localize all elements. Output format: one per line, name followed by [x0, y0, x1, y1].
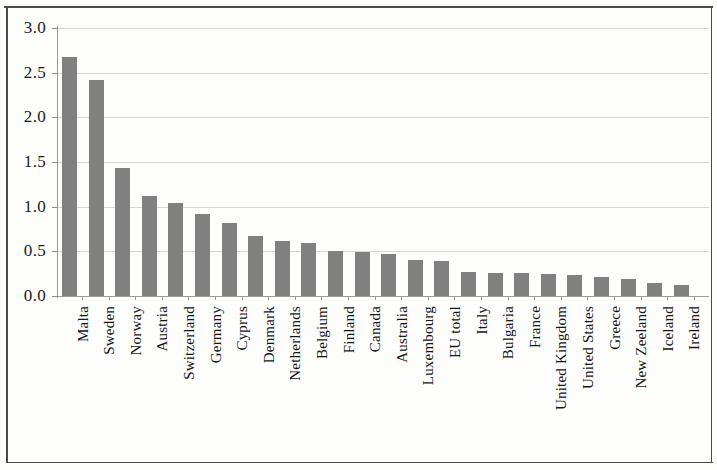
x-axis-label: United Kingdom: [554, 306, 569, 456]
x-tick-mark: [162, 296, 163, 300]
bar: [222, 223, 237, 296]
x-tick-mark: [242, 296, 243, 300]
x-tick-mark: [561, 296, 562, 300]
bar: [674, 285, 689, 296]
x-tick-mark: [135, 296, 136, 300]
y-tick-label-0.0: 0.0: [0, 287, 46, 304]
bar: [62, 57, 77, 296]
x-axis-label: Denmark: [262, 306, 277, 456]
bar: [434, 261, 449, 296]
bar: [301, 243, 316, 296]
x-axis-label: Greece: [608, 306, 623, 456]
bar: [275, 241, 290, 296]
y-tick-label-2.0: 2.0: [0, 108, 46, 125]
x-tick-mark: [268, 296, 269, 300]
x-tick-mark: [641, 296, 642, 300]
bar: [381, 254, 396, 296]
x-tick-mark: [614, 296, 615, 300]
x-tick-mark: [82, 296, 83, 300]
bar: [567, 275, 582, 296]
x-tick-mark: [401, 296, 402, 300]
bar: [594, 277, 609, 296]
x-axis-label: Ireland: [687, 306, 702, 456]
x-tick-mark: [508, 296, 509, 300]
x-tick-mark: [321, 296, 322, 300]
x-tick-mark: [587, 296, 588, 300]
bar: [355, 252, 370, 296]
x-axis-label: Italy: [475, 306, 490, 456]
bar: [195, 214, 210, 296]
x-axis-label: Netherlands: [288, 306, 303, 456]
bar: [488, 273, 503, 296]
y-tick-mark-2.0: [52, 117, 58, 118]
x-axis-label: Norway: [129, 306, 144, 456]
x-axis-label: France: [528, 306, 543, 456]
x-axis-label: Malta: [76, 306, 91, 456]
x-tick-mark: [109, 296, 110, 300]
x-tick-mark: [375, 296, 376, 300]
x-axis-label: New Zeeland: [634, 306, 649, 456]
x-axis-label: Cyprus: [235, 306, 250, 456]
bar: [408, 260, 423, 296]
y-tick-label-0.5: 0.5: [0, 242, 46, 259]
x-tick-mark: [667, 296, 668, 300]
x-tick-mark: [534, 296, 535, 300]
gridline-1.5: [57, 162, 709, 163]
bar: [461, 272, 476, 296]
x-axis-label: Luxembourg: [421, 306, 436, 456]
x-axis-label: Switzerland: [182, 306, 197, 456]
bar: [248, 236, 263, 296]
gridline-3.0: [57, 28, 709, 29]
x-axis-label: Iceland: [661, 306, 676, 456]
x-tick-mark: [348, 296, 349, 300]
x-axis-label: Canada: [368, 306, 383, 456]
y-tick-label-2.5: 2.5: [0, 64, 46, 81]
y-tick-mark-2.5: [52, 73, 58, 74]
chart-figure: 0.00.51.01.52.02.53.0 MaltaSwedenNorwayA…: [0, 0, 717, 470]
y-tick-label-1.5: 1.5: [0, 153, 46, 170]
x-tick-mark: [188, 296, 189, 300]
y-tick-mark-3.0: [52, 28, 58, 29]
bar: [514, 273, 529, 296]
bar: [115, 168, 130, 296]
x-tick-mark: [481, 296, 482, 300]
x-tick-mark: [215, 296, 216, 300]
gridline-0.0: [57, 296, 709, 297]
bar: [328, 251, 343, 296]
gridline-2.5: [57, 73, 709, 74]
plot-area: 0.00.51.01.52.02.53.0 MaltaSwedenNorwayA…: [0, 0, 717, 470]
y-tick-mark-1.0: [52, 207, 58, 208]
x-axis-label: Sweden: [102, 306, 117, 456]
x-axis-label: Belgium: [315, 306, 330, 456]
y-tick-label-1.0: 1.0: [0, 198, 46, 215]
bar: [168, 203, 183, 296]
y-tick-mark-0.5: [52, 251, 58, 252]
y-tick-mark-0.0: [52, 296, 58, 297]
bar: [142, 196, 157, 296]
x-axis-label: Austria: [155, 306, 170, 456]
x-axis-label: Germany: [209, 306, 224, 456]
bar: [89, 80, 104, 296]
y-tick-label-3.0: 3.0: [0, 19, 46, 36]
x-axis-label: Bulgaria: [501, 306, 516, 456]
gridline-2.0: [57, 117, 709, 118]
bar: [647, 283, 662, 296]
bar: [541, 274, 556, 296]
y-tick-mark-1.5: [52, 162, 58, 163]
x-axis-label: EU total: [448, 306, 463, 456]
x-tick-mark: [295, 296, 296, 300]
x-axis-label: Finland: [342, 306, 357, 456]
x-tick-mark: [694, 296, 695, 300]
x-tick-mark: [428, 296, 429, 300]
x-tick-mark: [454, 296, 455, 300]
x-axis-label: Australia: [395, 306, 410, 456]
x-axis-label: United States: [581, 306, 596, 456]
bar: [621, 279, 636, 296]
